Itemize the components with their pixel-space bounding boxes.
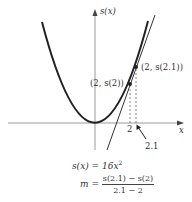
tick-pointer-arrow-icon	[137, 125, 142, 131]
function-formula: s(x) = 16x2	[72, 159, 122, 171]
slope-numerator: s(2.1) − s(2)	[102, 174, 154, 185]
y-axis-label: s(x)	[100, 6, 116, 16]
point-label-2: (2, s(2))	[90, 78, 124, 88]
slope-formula-lhs: m =	[80, 179, 99, 189]
slope-denominator: 2.1 − 2	[102, 185, 154, 195]
function-formula-exponent: 2	[119, 159, 123, 166]
x-axis-label: x	[179, 125, 184, 135]
slope-formula: m = s(2.1) − s(2) 2.1 − 2	[80, 174, 154, 195]
y-axis-arrow-icon	[93, 9, 98, 16]
point-label-21: (2, s(2.1))	[141, 62, 183, 72]
tick-label-21: 2.1	[145, 141, 159, 151]
point-2	[128, 82, 132, 86]
point-21	[134, 65, 138, 69]
tick-label-2: 2	[127, 124, 132, 134]
diagram-canvas: s(x) x 2 2.1 (2, s(2)) (2, s(2.1))	[0, 0, 192, 202]
slope-fraction: s(2.1) − s(2) 2.1 − 2	[102, 174, 154, 195]
tick-pointer	[138, 127, 146, 139]
function-formula-lhs: s(x) = 16x	[72, 161, 119, 171]
